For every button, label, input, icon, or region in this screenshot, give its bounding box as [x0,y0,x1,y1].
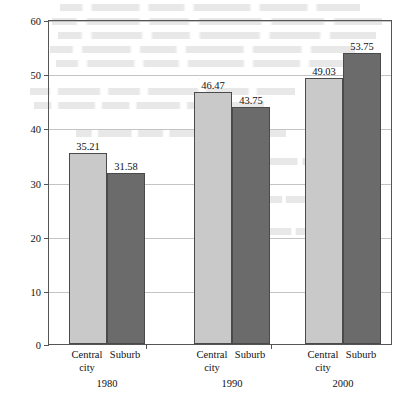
ytick-label-50: 50 [31,70,42,81]
ytick-label-30: 30 [31,178,42,189]
ytick-mark-20 [44,238,49,239]
gridline-50 [49,75,391,76]
employment-grouped-bar-chart: Employment: millions of jobs 60 50 40 30… [0,0,416,408]
bar-value-2000-suburb: 53.75 [350,41,374,52]
ytick-label-40: 40 [31,124,42,135]
bar-1990-central-city[interactable]: 46.47 [194,92,232,344]
bar-value-2000-central-city: 49.03 [312,66,336,77]
ytick-mark-30 [44,184,49,185]
bar-1980-suburb[interactable]: 31.58 [107,173,145,344]
ytick-mark-40 [44,129,49,130]
bar-2000-suburb[interactable]: 53.75 [343,53,381,344]
gridline-60 [49,21,391,22]
xaxis-label-2000-suburb: Suburb [329,348,393,361]
bar-value-1980-suburb: 31.58 [114,161,138,172]
xaxis-label-1990-central-city-line2: city [180,361,244,374]
bar-value-1990-central-city: 46.47 [201,80,225,91]
group-label-2000: 2000 [298,378,388,389]
ytick-label-10: 10 [31,286,42,297]
plot-area: 60 50 40 30 20 10 0 35.21 31.58 46.47 43… [48,20,392,345]
ytick-label-60: 60 [31,16,42,27]
ytick-mark-0 [44,345,49,346]
xaxis-label-1980-central-city-line2: city [55,361,119,374]
xaxis-label-1980-suburb: Suburb [93,348,157,361]
ytick-label-0: 0 [36,340,41,351]
xaxis-label-2000-central-city-line2: city [291,361,355,374]
ytick-mark-60 [44,21,49,22]
ytick-mark-50 [44,75,49,76]
ytick-mark-10 [44,292,49,293]
bar-value-1990-suburb: 43.75 [239,95,263,106]
bar-1990-suburb[interactable]: 43.75 [232,107,270,344]
bar-1980-central-city[interactable]: 35.21 [69,153,107,344]
group-label-1980: 1980 [62,378,152,389]
bar-value-1980-central-city: 35.21 [76,141,100,152]
ytick-label-20: 20 [31,232,42,243]
group-label-1990: 1990 [187,378,277,389]
xaxis-label-1990-suburb: Suburb [218,348,282,361]
bar-2000-central-city[interactable]: 49.03 [305,78,343,344]
